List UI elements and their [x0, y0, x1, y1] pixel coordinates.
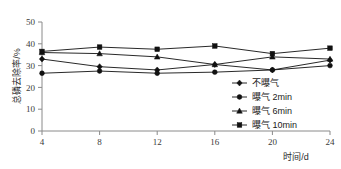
- x-axis-tick-label: 16: [210, 137, 220, 147]
- x-axis-tick-label: 24: [326, 137, 336, 147]
- legend-item-label: 曝气 6min: [252, 105, 292, 116]
- legend-marker-icon: [237, 95, 242, 100]
- legend-item-label: 曝气 10min: [252, 119, 297, 130]
- chart-background: [0, 0, 341, 169]
- data-point: [40, 49, 45, 54]
- y-axis-title: 总磷去除率/%: [11, 48, 22, 104]
- y-axis-title-text: 总磷去除率/%: [11, 48, 22, 104]
- y-axis-tick-label: 50: [26, 17, 36, 27]
- chart-container: 01020304050 4812162024 不曝气曝气 2min曝气 6min…: [0, 0, 341, 169]
- data-point: [213, 44, 218, 49]
- x-axis-tick-label: 8: [97, 137, 102, 147]
- legend-item-label: 不曝气: [252, 77, 279, 88]
- data-point: [40, 71, 45, 76]
- y-axis-tick-label: 40: [26, 39, 36, 49]
- x-axis-title: 时间/d: [283, 151, 309, 162]
- y-axis-tick-label: 10: [26, 104, 36, 114]
- x-axis-title-text: 时间/d: [283, 151, 309, 162]
- data-point: [328, 63, 333, 68]
- data-point: [97, 45, 102, 50]
- data-point: [97, 69, 102, 74]
- data-point: [155, 47, 160, 52]
- x-axis-tick-label: 12: [153, 137, 162, 147]
- y-axis-tick-label: 20: [26, 83, 36, 93]
- data-point: [212, 70, 217, 75]
- y-axis-tick-label: 0: [31, 126, 36, 136]
- data-point: [270, 68, 275, 73]
- y-axis-tick-label: 30: [26, 61, 36, 71]
- x-axis-tick-label: 20: [268, 137, 278, 147]
- data-point: [270, 51, 275, 56]
- legend-item-label: 曝气 2min: [252, 91, 292, 102]
- x-axis-tick-label: 4: [40, 137, 45, 147]
- legend-marker-icon: [237, 123, 242, 128]
- total-phosphorus-removal-line-chart: 01020304050 4812162024 不曝气曝气 2min曝气 6min…: [0, 0, 341, 169]
- data-point: [155, 71, 160, 76]
- data-point: [328, 46, 333, 51]
